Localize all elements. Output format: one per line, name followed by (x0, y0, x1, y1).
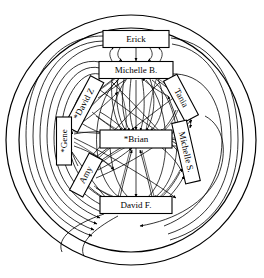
network-graph-canvas: Erick Michelle B. *David Z Tania *Gene * (0, 0, 264, 278)
node-label-brian: *Brian (124, 134, 149, 144)
node-amy[interactable]: Amy (70, 153, 103, 197)
node-gene[interactable]: *Gene (57, 117, 72, 165)
node-michelle-b[interactable]: Michelle B. (99, 62, 173, 79)
node-david-f[interactable]: David F. (100, 197, 172, 214)
node-erick[interactable]: Erick (103, 31, 169, 48)
node-label-erick: Erick (126, 34, 146, 44)
node-brian[interactable]: *Brian (100, 130, 172, 148)
sociogram-diagram: Erick Michelle B. *David Z Tania *Gene * (0, 0, 264, 278)
node-group: Erick Michelle B. *David Z Tania *Gene * (57, 31, 201, 214)
node-label-michelle-b: Michelle B. (115, 65, 158, 75)
node-label-gene: *Gene (59, 129, 69, 153)
node-label-david-f: David F. (121, 200, 152, 210)
node-michelle-s[interactable]: Michelle S. (172, 120, 201, 184)
